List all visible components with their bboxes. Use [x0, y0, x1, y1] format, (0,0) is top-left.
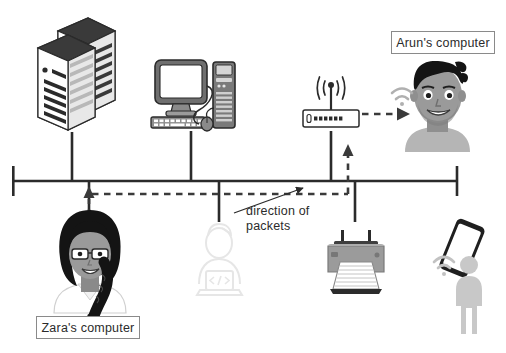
- developer-laptop-icon-faded: [197, 224, 242, 295]
- wifi-dot-arun: [400, 102, 404, 106]
- direction-line-1: direction of: [246, 204, 338, 219]
- label-zara-computer: Zara's computer: [36, 316, 140, 339]
- arrowhead-access-point: [343, 144, 354, 156]
- arrowhead-zara: [84, 186, 95, 198]
- label-zara-text: Zara's computer: [42, 321, 135, 335]
- packet-path-arrowheads: [84, 108, 411, 199]
- server-stack-icon: [38, 18, 115, 130]
- label-arun-computer: Arun's computer: [391, 31, 495, 54]
- label-arun-text: Arun's computer: [396, 36, 490, 50]
- direction-line-2: packets: [246, 219, 338, 234]
- network-backbone: [13, 166, 458, 196]
- wireless-access-point-icon: [303, 77, 359, 127]
- desktop-computer-icon: [151, 60, 235, 131]
- wifi-icon-arun: [392, 89, 412, 100]
- arun-person-icon: [392, 61, 470, 152]
- zara-person-icon: [54, 210, 126, 321]
- arrowhead-arun: [397, 108, 410, 121]
- label-direction-of-packets: direction of packets: [246, 204, 338, 234]
- network-diagram: Arun's computer Zara's computer directio…: [0, 0, 506, 353]
- packet-path: [89, 114, 396, 240]
- printer-icon: [328, 230, 384, 294]
- server-front: [38, 35, 95, 130]
- wifi-dot-phone: [442, 272, 446, 276]
